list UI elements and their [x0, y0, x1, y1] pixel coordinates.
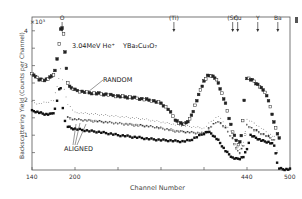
element-label: O — [52, 14, 72, 21]
element-arrows — [61, 22, 280, 32]
x-tick-label: 500 — [284, 174, 295, 180]
element-label: Cu — [228, 14, 248, 21]
x-tick-label: 440 — [241, 174, 252, 180]
y-tick-label: 4 — [24, 28, 28, 34]
plot-canvas — [0, 0, 302, 199]
element-label: Ba — [268, 14, 288, 21]
y-tick-label: 2 — [24, 97, 28, 103]
target-label: YBa₂Cu₃O₇ — [123, 42, 157, 50]
x-tick-label: 200 — [69, 174, 80, 180]
y-multiplier: ×10³ — [30, 19, 45, 25]
element-label: Y — [248, 14, 268, 21]
x-tick-label: 140 — [26, 174, 37, 180]
page-edge-mark — [295, 17, 298, 23]
element-label: (Ti) — [164, 14, 184, 21]
aligned-label: ALIGNED — [64, 145, 93, 153]
y-tick-label: 3 — [24, 63, 28, 69]
x-axis-label: Channel Number — [130, 184, 185, 192]
beam-label: 3.04MeV He⁺ — [72, 42, 115, 50]
random-label: RANDOM — [103, 76, 132, 84]
y-tick-label: 1 — [24, 132, 28, 138]
